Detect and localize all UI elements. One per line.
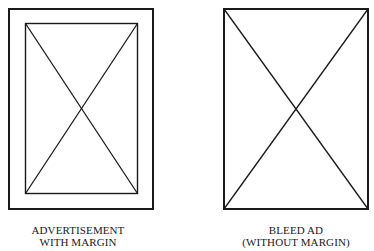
bleed-ad-figure bbox=[224, 9, 368, 209]
caption-line: (WITHOUT MARGIN) bbox=[226, 237, 366, 249]
bleed-ad-caption: BLEED AD (WITHOUT MARGIN) bbox=[226, 225, 366, 248]
margin-ad-figure bbox=[9, 9, 153, 209]
caption-line: ADVERTISEMENT bbox=[18, 225, 138, 237]
ad-layout-diagram bbox=[0, 0, 374, 251]
caption-line: WITH MARGIN bbox=[18, 237, 138, 249]
margin-ad-caption: ADVERTISEMENT WITH MARGIN bbox=[18, 225, 138, 248]
caption-line: BLEED AD bbox=[226, 225, 366, 237]
